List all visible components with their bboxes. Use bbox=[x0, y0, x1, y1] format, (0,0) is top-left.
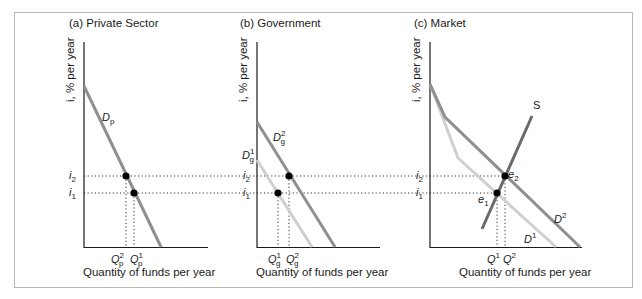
i1-label-a: i1 bbox=[69, 187, 76, 201]
qp1-label: Q1p bbox=[130, 252, 142, 268]
s-label: S bbox=[533, 100, 540, 111]
panel-c-xlabel: Quantity of funds per year bbox=[459, 266, 591, 278]
q2-label: Q2 bbox=[503, 252, 516, 265]
qg2-label: Q2g bbox=[286, 252, 298, 268]
panel-c-ylabel: i, % per year bbox=[410, 37, 422, 102]
equilibrium-e1 bbox=[493, 189, 500, 196]
point-i1-qg1 bbox=[274, 189, 281, 196]
panel-a-ylabel: i, % per year bbox=[64, 37, 76, 102]
supply-curve-s bbox=[482, 116, 532, 229]
e2-label: e2 bbox=[508, 169, 519, 183]
rate-guides bbox=[84, 176, 505, 247]
dg1-label: D1g bbox=[242, 148, 254, 164]
panel-a bbox=[84, 42, 208, 248]
demand-curve-dp bbox=[84, 86, 161, 247]
panel-c-title: (c) Market bbox=[414, 17, 466, 29]
demand-curve-dg1 bbox=[257, 160, 312, 247]
i1-label-c: i1 bbox=[416, 187, 423, 201]
panel-b-ylabel: i, % per year bbox=[237, 37, 249, 102]
point-i2-qg2 bbox=[285, 172, 292, 179]
i2-label-b: i2 bbox=[243, 170, 250, 184]
panel-b-title: (b) Government bbox=[240, 17, 321, 29]
dg2-label: D2g bbox=[273, 130, 285, 146]
panel-a-xlabel: Quantity of funds per year bbox=[83, 266, 215, 278]
qp2-label: Q2p bbox=[111, 252, 123, 268]
i1-label-b: i1 bbox=[243, 187, 250, 201]
e1-label: e1 bbox=[478, 194, 489, 208]
i2-label-c: i2 bbox=[416, 170, 423, 184]
d1-label: D1 bbox=[524, 232, 536, 245]
panel-a-title: (a) Private Sector bbox=[69, 17, 158, 29]
q1-label: Q1 bbox=[487, 252, 500, 265]
i2-label-a: i2 bbox=[69, 170, 76, 184]
demand-curve-dg2 bbox=[257, 122, 335, 247]
point-i2-qp2 bbox=[122, 172, 129, 179]
point-i1-qp1 bbox=[130, 189, 137, 196]
d2-label: D2 bbox=[554, 212, 566, 225]
loanable-funds-diagram bbox=[0, 0, 642, 299]
dp-label: Dp bbox=[102, 112, 114, 126]
qg1-label: Q1g bbox=[268, 252, 280, 268]
